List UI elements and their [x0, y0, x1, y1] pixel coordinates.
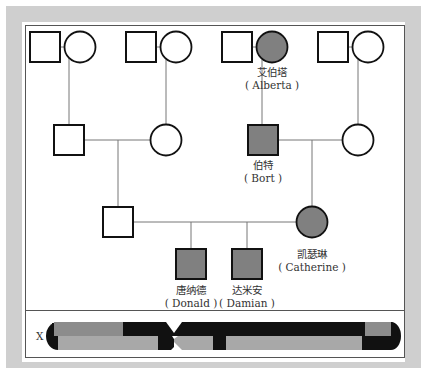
label-damian-cn: 达米安	[232, 284, 262, 296]
label-bort-cn: 伯特	[253, 159, 274, 171]
label-catherine-en: ( Catherine )	[278, 261, 346, 273]
affected-female-alberta	[257, 32, 288, 63]
diagram-panel: 艾伯塔 ( Alberta ) 伯特 ( Bort ) 凯瑟琳 ( Cather…	[22, 22, 405, 362]
affected-male-donald	[176, 249, 206, 279]
pedigree-diagram: 艾伯塔 ( Alberta ) 伯特 ( Bort ) 凯瑟琳 ( Cather…	[22, 22, 405, 362]
label-damian-en: ( Damian )	[219, 297, 275, 309]
label-alberta-en: ( Alberta )	[245, 79, 299, 91]
male-symbol-g3-1	[103, 207, 133, 237]
male-symbol-g1-1	[30, 32, 60, 62]
female-symbol-g1-2	[161, 32, 192, 63]
female-symbol-g2-2	[343, 125, 374, 156]
male-symbol-g1-3	[222, 32, 252, 62]
chromosome-label: X	[36, 330, 44, 342]
label-alberta-cn: 艾伯塔	[257, 66, 288, 78]
affected-female-catherine	[297, 207, 328, 238]
male-symbol-g1-2	[126, 32, 156, 62]
female-symbol-g2-1	[151, 125, 182, 156]
affected-male-bort	[248, 125, 278, 155]
male-symbol-g1-4	[318, 32, 348, 62]
label-donald-cn: 唐纳德	[176, 284, 207, 296]
label-donald-en: ( Donald )	[165, 297, 218, 309]
female-symbol-g1-1	[65, 32, 96, 63]
x-chromosome	[46, 322, 401, 350]
label-bort-en: ( Bort )	[244, 172, 282, 184]
male-symbol-g2-1	[54, 125, 84, 155]
female-symbol-g1-4	[353, 32, 384, 63]
label-catherine-cn: 凯瑟琳	[297, 248, 328, 260]
affected-male-damian	[232, 249, 262, 279]
